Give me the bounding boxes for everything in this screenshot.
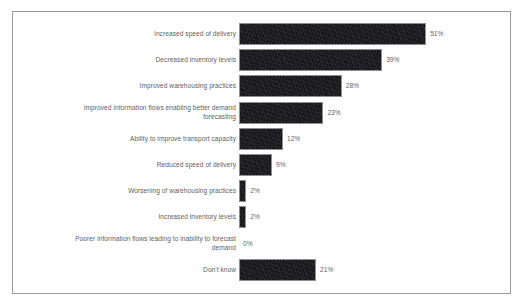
bar-category-label: Improved warehousing practices <box>36 82 236 90</box>
bar-fill[interactable] <box>239 75 342 97</box>
bar-value-label: 12% <box>287 135 300 143</box>
bar-value-label: 28% <box>346 82 359 90</box>
bar-value-label: 51% <box>430 30 443 38</box>
bar-category-label: Improved information flows enabling bett… <box>36 104 236 120</box>
bar-category-label: Worsening of warehousing practices <box>36 187 236 195</box>
bar-chart-plot-area: Increased speed of delivery51%Decreased … <box>13 12 510 293</box>
bar-category-label: Decreased inventory levels <box>36 56 236 64</box>
bar-value-label: 0% <box>243 240 253 248</box>
bar-fill[interactable] <box>239 154 272 176</box>
bar-row[interactable]: Improved warehousing practices28% <box>13 75 510 97</box>
bar-row[interactable]: Poorer information flows leading to inab… <box>13 233 510 255</box>
bar-category-label: Increased speed of delivery <box>36 30 236 38</box>
bar-row[interactable]: Don't know21% <box>13 259 510 281</box>
bar-fill[interactable] <box>239 206 246 228</box>
bar-row[interactable]: Ability to improve transport capacity12% <box>13 128 510 150</box>
bar-fill[interactable] <box>239 102 323 124</box>
chart-frame: Increased speed of delivery51%Decreased … <box>12 11 511 294</box>
bar-row[interactable]: Increased inventory levels2% <box>13 206 510 228</box>
bar-row[interactable]: Improved information flows enabling bett… <box>13 102 510 124</box>
bar-row[interactable]: Worsening of warehousing practices2% <box>13 180 510 202</box>
bar-fill[interactable] <box>239 180 246 202</box>
bar-row[interactable]: Increased speed of delivery51% <box>13 23 510 45</box>
bar-value-label: 39% <box>386 56 399 64</box>
bar-category-label: Don't know <box>36 266 236 274</box>
bar-value-label: 21% <box>320 266 333 274</box>
bar-value-label: 2% <box>250 213 260 221</box>
bar-row[interactable]: Reduced speed of delivery9% <box>13 154 510 176</box>
bar-value-label: 9% <box>276 161 286 169</box>
bar-value-label: 23% <box>327 109 340 117</box>
bar-value-label: 2% <box>250 187 260 195</box>
bar-category-label: Increased inventory levels <box>36 213 236 221</box>
bar-fill[interactable] <box>239 49 382 71</box>
bar-row[interactable]: Decreased inventory levels39% <box>13 49 510 71</box>
bar-category-label: Poorer information flows leading to inab… <box>36 235 236 251</box>
bar-category-label: Reduced speed of delivery <box>36 161 236 169</box>
bar-fill[interactable] <box>239 259 316 281</box>
bar-fill[interactable] <box>239 128 283 150</box>
bar-fill[interactable] <box>239 23 426 45</box>
bar-category-label: Ability to improve transport capacity <box>36 135 236 143</box>
